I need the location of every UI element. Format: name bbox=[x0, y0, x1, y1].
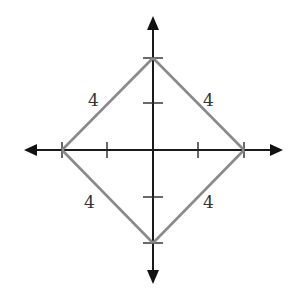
y-axis-down-arrow-icon bbox=[147, 270, 159, 284]
label-lower-right: 4 bbox=[203, 192, 214, 212]
x-axis-right-arrow-icon bbox=[270, 144, 283, 156]
side-lower-right bbox=[153, 150, 244, 243]
x-axis-left-arrow-icon bbox=[24, 144, 37, 156]
side-lower-left bbox=[62, 150, 153, 243]
label-upper-left: 4 bbox=[88, 90, 99, 110]
y-axis-up-arrow-icon bbox=[147, 16, 159, 30]
diagram-canvas: 4 4 4 4 bbox=[0, 0, 299, 297]
label-lower-left: 4 bbox=[84, 192, 95, 212]
side-upper-right bbox=[153, 58, 244, 150]
label-upper-right: 4 bbox=[203, 90, 214, 110]
rotated-square-diagram: 4 4 4 4 bbox=[0, 0, 299, 297]
side-upper-left bbox=[62, 58, 153, 150]
